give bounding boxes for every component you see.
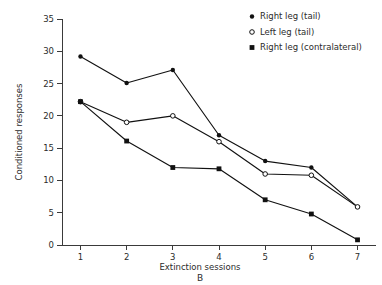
x-axis-title: Extinction sessions <box>159 262 241 272</box>
data-point <box>355 237 360 242</box>
data-point <box>124 139 129 144</box>
data-series-group <box>78 54 360 242</box>
series-line <box>80 56 357 206</box>
data-point <box>171 68 175 72</box>
y-tick-label: 20 <box>43 111 54 121</box>
y-tick-label: 10 <box>43 175 54 185</box>
data-point <box>217 139 222 144</box>
data-point <box>124 120 129 125</box>
y-tick-label: 0 <box>49 240 54 250</box>
data-point <box>78 54 82 58</box>
series-line <box>80 102 357 207</box>
data-point <box>78 99 83 104</box>
y-tick-label: 5 <box>49 208 54 218</box>
y-axis: 05101520253035 <box>43 14 62 250</box>
data-point <box>171 114 176 119</box>
series-2 <box>78 99 360 209</box>
data-point <box>309 165 313 169</box>
data-point <box>217 133 221 137</box>
legend-marker <box>250 30 255 35</box>
y-tick-label: 15 <box>43 143 54 153</box>
chart-legend: Right leg (tail)Left leg (tail)Right leg… <box>250 11 362 52</box>
data-point <box>309 173 314 178</box>
series-1 <box>78 54 359 209</box>
legend-marker <box>250 14 254 18</box>
x-tick-label: 4 <box>216 252 221 262</box>
series-3 <box>78 99 360 242</box>
x-tick-label: 7 <box>355 252 360 262</box>
x-tick-label: 1 <box>78 252 83 262</box>
data-point <box>355 205 360 210</box>
x-tick-label: 5 <box>262 252 267 262</box>
data-point <box>124 81 128 85</box>
data-point <box>263 172 268 177</box>
x-axis: 1234567 <box>62 245 376 262</box>
chart-figure: 05101520253035 1234567 Right leg (tail)L… <box>0 0 382 285</box>
legend-entry: Left leg (tail) <box>250 27 315 37</box>
legend-label: Left leg (tail) <box>260 27 314 37</box>
y-tick-label: 35 <box>43 14 54 24</box>
y-axis-title: Conditioned responses <box>14 83 24 180</box>
x-tick-label: 3 <box>170 252 175 262</box>
data-point <box>263 159 267 163</box>
data-point <box>309 212 314 217</box>
legend-marker <box>250 45 255 50</box>
panel-label: B <box>197 273 203 283</box>
data-point <box>217 166 222 171</box>
legend-label: Right leg (tail) <box>260 11 321 21</box>
data-point <box>170 165 175 170</box>
x-tick-label: 2 <box>124 252 129 262</box>
x-tick-label: 6 <box>309 252 314 262</box>
data-point <box>263 197 268 202</box>
legend-entry: Right leg (tail) <box>250 11 321 21</box>
y-tick-label: 25 <box>43 79 54 89</box>
legend-entry: Right leg (contralateral) <box>250 42 362 52</box>
line-chart: 05101520253035 1234567 Right leg (tail)L… <box>0 0 382 285</box>
legend-label: Right leg (contralateral) <box>260 42 362 52</box>
y-tick-label: 30 <box>43 46 54 56</box>
